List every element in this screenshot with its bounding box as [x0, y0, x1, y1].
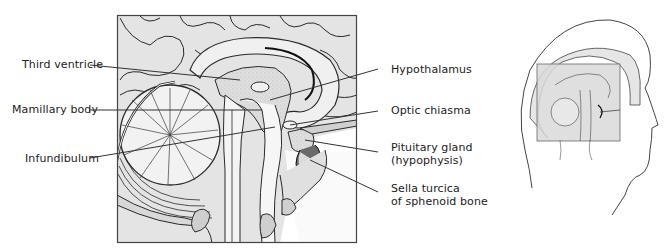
main-section — [117, 15, 357, 243]
label-infundibulum: Infundibulum — [25, 152, 99, 165]
label-optic-chiasma: Optic chiasma — [391, 104, 471, 117]
label-sella-line2: of sphenoid bone — [391, 195, 488, 208]
label-pituitary-line2: (hypophysis) — [391, 154, 473, 167]
label-sella-line1: Sella turcica — [391, 182, 488, 195]
anatomy-figure: Third ventricle Mamillary body Infundibu… — [0, 0, 668, 249]
label-mamillary-body: Mamillary body — [12, 103, 98, 116]
label-sella-turcica: Sella turcica of sphenoid bone — [391, 182, 488, 208]
label-pituitary-gland: Pituitary gland (hypophysis) — [391, 141, 473, 167]
label-pituitary-line1: Pituitary gland — [391, 141, 473, 154]
brain-section-drawing — [0, 0, 668, 249]
label-third-ventricle: Third ventricle — [22, 58, 103, 71]
inset-head-drawing — [521, 20, 658, 215]
label-hypothalamus: Hypothalamus — [391, 63, 472, 76]
